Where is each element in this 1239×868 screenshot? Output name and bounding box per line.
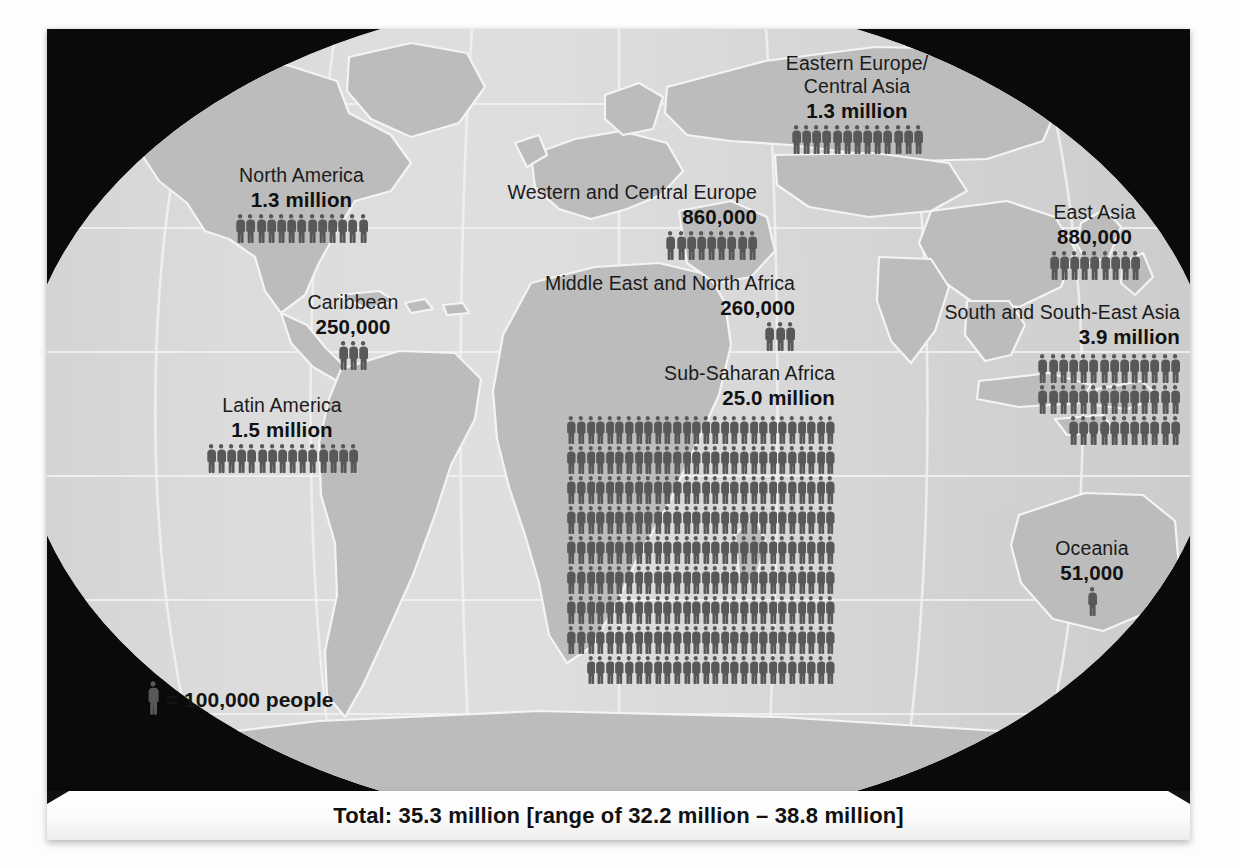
person-icon (893, 124, 903, 155)
person-icon (729, 535, 739, 565)
person-icon (806, 595, 816, 625)
person-icon (672, 565, 682, 595)
person-icon (701, 565, 711, 595)
person-icon (720, 475, 730, 505)
person-icon (706, 230, 716, 261)
region-value: 860,000 (477, 204, 757, 230)
person-icon (816, 415, 826, 445)
person-icon (672, 475, 682, 505)
pictogram-row (517, 445, 835, 475)
pictogram-row (517, 625, 835, 655)
infographic-page: North America 1.3 million Caribbean 250,… (0, 0, 1239, 868)
region-latin-america: Latin America 1.5 million (182, 394, 382, 474)
person-icon (749, 445, 759, 475)
person-icon (672, 505, 682, 535)
person-icon (586, 565, 596, 595)
person-icon (768, 595, 778, 625)
person-icon (147, 680, 159, 720)
person-icon (624, 505, 634, 535)
person-icon (605, 445, 615, 475)
person-icon (758, 415, 768, 445)
person-icon (1069, 250, 1079, 281)
person-icon (296, 213, 306, 244)
person-icon (768, 475, 778, 505)
person-icon (643, 565, 653, 595)
person-icon (691, 475, 701, 505)
person-icon (327, 213, 337, 244)
region-oceania: Oceania 51,000 (1007, 537, 1177, 617)
person-icon (337, 213, 347, 244)
pictogram-row (517, 505, 835, 535)
person-icon (267, 443, 277, 474)
person-icon (1109, 384, 1119, 415)
pictogram-row (890, 353, 1180, 384)
person-icon (777, 475, 787, 505)
person-icon (1119, 353, 1129, 384)
person-icon (785, 321, 795, 352)
person-icon (768, 655, 778, 685)
person-icon (643, 655, 653, 685)
person-icon (720, 595, 730, 625)
person-icon (787, 655, 797, 685)
person-icon (764, 321, 774, 352)
person-icon (1139, 384, 1149, 415)
person-icon (595, 415, 605, 445)
person-icon (672, 655, 682, 685)
person-icon (682, 655, 692, 685)
person-icon (653, 445, 663, 475)
person-icon (1058, 384, 1068, 415)
person-icon (749, 475, 759, 505)
person-icon (691, 535, 701, 565)
person-icon (777, 445, 787, 475)
person-icon (566, 595, 576, 625)
person-icon (605, 505, 615, 535)
person-icon (576, 445, 586, 475)
person-icon (777, 625, 787, 655)
person-icon (758, 595, 768, 625)
person-icon (777, 535, 787, 565)
person-icon (749, 565, 759, 595)
person-icon (576, 505, 586, 535)
person-icon (586, 535, 596, 565)
person-icon (566, 505, 576, 535)
person-icon (586, 655, 596, 685)
person-icon (634, 415, 644, 445)
person-icon (586, 475, 596, 505)
person-icon (576, 415, 586, 445)
region-south-south-east-asia: South and South-East Asia 3.9 million (890, 301, 1180, 446)
person-icon (1119, 415, 1129, 446)
pictogram-row (890, 415, 1180, 446)
person-icon (816, 625, 826, 655)
person-icon (806, 505, 816, 535)
person-icon (913, 124, 923, 155)
person-icon (1087, 586, 1097, 617)
person-icon (1170, 384, 1180, 415)
person-icon (634, 595, 644, 625)
person-icon (1130, 250, 1140, 281)
pictogram-row (517, 565, 835, 595)
total-label: Total: 35.3 million [range of 32.2 milli… (333, 803, 904, 829)
person-icon (806, 625, 816, 655)
person-icon (1048, 353, 1058, 384)
person-icon (245, 213, 255, 244)
region-label-line2: Central Asia (747, 75, 967, 98)
person-icon (672, 625, 682, 655)
pictogram-group (1007, 586, 1177, 617)
person-icon (691, 595, 701, 625)
person-icon (586, 505, 596, 535)
region-value: 1.5 million (182, 417, 382, 443)
region-sub-saharan-africa: Sub-Saharan Africa 25.0 million (517, 362, 835, 685)
person-icon (634, 445, 644, 475)
person-icon (1149, 415, 1159, 446)
person-icon (691, 445, 701, 475)
person-icon (1160, 415, 1170, 446)
person-icon (787, 565, 797, 595)
person-icon (338, 443, 348, 474)
person-icon (624, 535, 634, 565)
person-icon (317, 213, 327, 244)
person-icon (1088, 415, 1098, 446)
person-icon (739, 625, 749, 655)
person-icon (806, 655, 816, 685)
person-icon (566, 445, 576, 475)
person-icon (586, 625, 596, 655)
